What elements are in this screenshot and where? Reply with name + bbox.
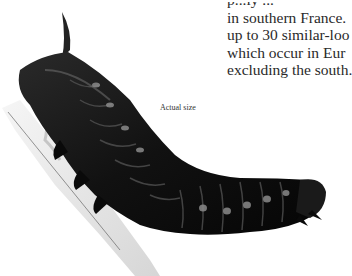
figure-caption: Actual size [160,103,196,112]
caterpillar [19,12,326,235]
